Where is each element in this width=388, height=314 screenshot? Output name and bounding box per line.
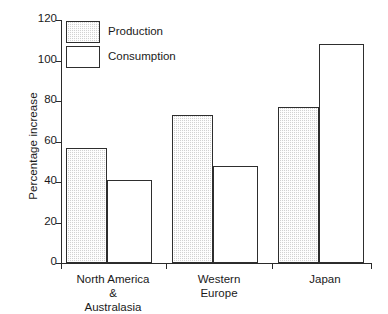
bar-production-north-america xyxy=(66,148,107,263)
legend-label-production: Production xyxy=(108,25,163,37)
x-tick-sep-2 xyxy=(272,263,273,269)
y-axis-line xyxy=(61,20,62,264)
y-tick-label: 0 xyxy=(51,255,57,267)
bar-production-japan xyxy=(278,107,319,263)
legend-swatch-consumption-icon xyxy=(66,46,100,68)
bar-consumption-japan xyxy=(319,44,364,263)
bar-consumption-western-europe xyxy=(213,166,258,263)
x-tick-sep-3 xyxy=(371,263,372,269)
legend-item-consumption: Consumption xyxy=(66,46,256,71)
bar-production-western-europe xyxy=(172,115,213,263)
category-label-japan: Japan xyxy=(265,272,385,286)
legend-label-consumption: Consumption xyxy=(108,50,176,62)
x-axis-line xyxy=(61,263,372,264)
legend-item-production: Production xyxy=(66,21,256,46)
x-tick-sep-0 xyxy=(61,263,62,269)
y-tick-label: 80 xyxy=(44,93,57,105)
y-tick-label: 120 xyxy=(38,12,57,24)
y-axis-title: Percentage increase xyxy=(27,51,39,241)
category-label-north-america: North America & Australasia xyxy=(53,272,173,314)
category-label-western-europe: Western Europe xyxy=(159,272,279,300)
legend-swatch-production-icon xyxy=(66,21,100,43)
legend: Production Consumption xyxy=(66,21,256,71)
x-tick-sep-1 xyxy=(166,263,167,269)
y-tick-label: 20 xyxy=(44,215,57,227)
y-tick-label: 100 xyxy=(38,53,57,65)
y-tick-label: 60 xyxy=(44,134,57,146)
y-tick-label: 40 xyxy=(44,174,57,186)
bar-consumption-north-america xyxy=(107,180,152,263)
